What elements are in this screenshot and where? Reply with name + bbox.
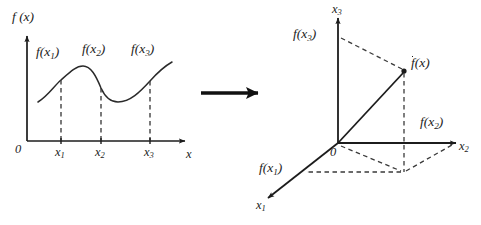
left-curve-label-f-x2: f(x2) [82,42,105,58]
right-plot-axes [268,18,456,198]
left-tick-label-x1: x1 [55,146,65,160]
figure-root: f (x) f(x1) f(x2) f(x3) 0 x1 x2 x3 x x3 … [0,0,481,225]
projection-box [307,38,452,172]
figure-artwork [0,0,481,225]
left-plot-drop-lines [61,80,150,140]
left-curve-label-f-x1: f(x1) [36,45,59,61]
right-vector-label-f-bar: f(x) [411,55,430,70]
left-x-axis-label: x [186,148,192,161]
function-curve [38,62,172,102]
proj-origin-to-base [341,146,401,171]
right-component-label-f-x2: f(x2) [420,115,443,131]
left-tick-label-x3: x3 [144,146,154,160]
right-axis-label-x1: x1 [256,199,266,213]
right-component-label-f-x1: f(x1) [259,161,282,177]
right-component-label-f-x3: f(x3) [293,27,316,43]
right-axis-label-x2: x2 [459,140,469,154]
proj-x3-to-tip [341,38,404,70]
right-axis-label-x3: x3 [332,3,342,17]
right-origin-label: 0 [330,146,336,159]
proj-base-to-x2 [406,145,452,171]
left-origin-label: 0 [15,143,21,156]
left-tick-label-x2: x2 [95,146,105,160]
left-curve-label-f-x3: f(x3) [131,42,154,58]
left-y-axis-label: f (x) [12,10,34,24]
resultant-vector [338,68,407,143]
